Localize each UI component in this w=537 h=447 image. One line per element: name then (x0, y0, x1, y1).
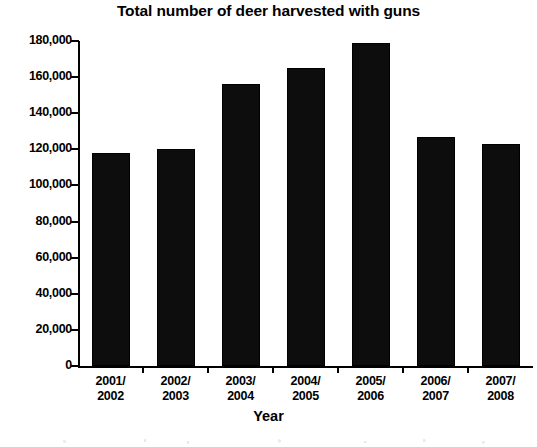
y-axis-tick-label: 180,000 (29, 33, 72, 47)
y-axis-tick-label: 120,000 (29, 141, 72, 155)
y-axis-tick-labels: 180,000160,000140,000120,000100,00080,00… (0, 41, 72, 367)
y-axis-line (78, 41, 80, 367)
y-axis-tick (71, 184, 79, 186)
y-axis-tick-label: 60,000 (36, 250, 72, 264)
x-axis-tick (142, 366, 144, 373)
y-axis-tick (71, 148, 79, 150)
x-axis-tick (337, 366, 339, 373)
bar (287, 68, 325, 366)
x-axis-tick (272, 366, 274, 373)
y-axis-tick-label: 140,000 (29, 105, 72, 119)
y-axis-tick-label: 100,000 (29, 177, 72, 191)
y-axis-tick-label: 80,000 (36, 214, 72, 228)
y-axis-tick (71, 40, 79, 42)
bar (92, 153, 130, 366)
x-axis-tick (467, 366, 469, 373)
y-axis-tick (71, 112, 79, 114)
bar-chart-figure: Total number of deer harvested with guns… (0, 0, 537, 447)
x-axis-tick-label: 2003/2004 (208, 374, 273, 404)
bar (417, 137, 455, 366)
x-axis-tick (207, 366, 209, 373)
x-axis-title: Year (0, 408, 537, 424)
y-axis-tick (71, 221, 79, 223)
y-axis-tick-label: 40,000 (36, 286, 72, 300)
x-axis-tick-label: 2007/2008 (468, 374, 533, 404)
y-axis-tick-label: 20,000 (36, 322, 72, 336)
y-axis-tick-label: 160,000 (29, 69, 72, 83)
bar (352, 43, 390, 366)
x-axis-tick-label: 2004/2005 (273, 374, 338, 404)
x-axis-line (78, 366, 533, 368)
chart-title: Total number of deer harvested with guns (0, 2, 537, 20)
y-axis-tick (71, 329, 79, 331)
x-axis-tick-label: 2005/2006 (338, 374, 403, 404)
y-axis-tick (71, 257, 79, 259)
plot-area (78, 41, 533, 366)
bar (157, 149, 195, 366)
y-axis-tick (71, 365, 79, 367)
x-axis-tick-label: 2006/2007 (403, 374, 468, 404)
bar (222, 84, 260, 366)
y-axis-tick (71, 76, 79, 78)
y-axis-tick (71, 293, 79, 295)
x-axis-tick (402, 366, 404, 373)
x-axis-tick-label: 2001/2002 (78, 374, 143, 404)
scan-noise-artifact (0, 436, 537, 447)
bar (482, 144, 520, 366)
x-axis-tick-label: 2002/2003 (143, 374, 208, 404)
